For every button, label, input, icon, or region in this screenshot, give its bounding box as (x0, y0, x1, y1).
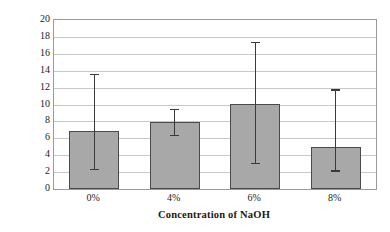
x-axis-tick-labels: 0%4%6%8% (53, 192, 375, 206)
x-tick-label: 4% (134, 192, 215, 204)
error-bar (174, 109, 175, 135)
error-bar (255, 42, 256, 163)
y-axis-tick-labels: 02468101214161820 (22, 0, 50, 232)
y-tick-label: 20 (22, 14, 50, 24)
x-axis-label: Concentration of NaOH (53, 209, 375, 220)
error-bar-cap-lower (251, 163, 260, 164)
error-bar-cap-lower (170, 135, 179, 136)
error-bar-cap-upper (170, 109, 179, 110)
x-tick-label: 6% (214, 192, 295, 204)
y-tick-label: 18 (22, 31, 50, 41)
y-tick-label: 4 (22, 149, 50, 159)
x-tick-label: 0% (53, 192, 134, 204)
gridline (54, 37, 376, 38)
error-bar (335, 89, 336, 170)
y-tick-label: 0 (22, 183, 50, 193)
plot-area (53, 19, 377, 190)
error-bar (94, 74, 95, 169)
gridline (54, 121, 376, 122)
y-tick-label: 10 (22, 99, 50, 109)
error-bar-cap-lower (331, 170, 340, 171)
y-tick-label: 16 (22, 48, 50, 58)
gridline (54, 88, 376, 89)
gridline (54, 54, 376, 55)
y-tick-label: 14 (22, 65, 50, 75)
gridline (54, 105, 376, 106)
y-tick-label: 2 (22, 166, 50, 176)
y-tick-label: 12 (22, 82, 50, 92)
error-bar-cap-upper (251, 42, 260, 43)
y-tick-label: 8 (22, 115, 50, 125)
error-bar-cap-lower (90, 169, 99, 170)
y-tick-label: 6 (22, 132, 50, 142)
gridline (54, 71, 376, 72)
error-bar-cap-upper (90, 74, 99, 75)
chart-figure: Elastic modulus (GPa) 02468101214161820 … (0, 0, 390, 232)
error-bar-cap-upper (331, 89, 340, 90)
x-tick-label: 8% (295, 192, 376, 204)
